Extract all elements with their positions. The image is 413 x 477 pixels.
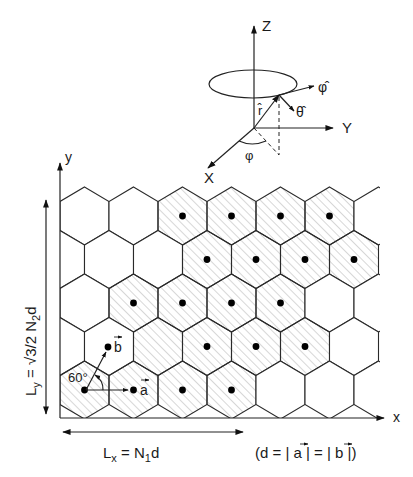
lattice-y-axis-label: y [65,149,72,165]
angle-label: 60° [68,370,88,385]
ly-label: Ly = √3/2 N2d [22,307,42,397]
lattice-site-dot [228,387,235,394]
spherical-coordinate-diagram: Z Y X r̂ θ̂ φ̂ φ [204,17,352,186]
lattice-site-dot [204,343,211,350]
lattice-site-dot [204,256,211,263]
projection-radial [254,128,279,155]
lattice-site-dot [228,213,235,220]
phi-angle-label: φ [245,148,253,163]
phi-angle-arc [239,141,266,144]
lattice-site-dot [302,343,309,350]
lattice-site-dot [253,256,260,263]
lattice-site-dot [179,300,186,307]
d-definition: (d = | a | = | b |) [255,444,356,461]
lattice-site-dot [277,213,284,220]
hexagonal-lattice-diagram: Z Y X r̂ θ̂ φ̂ φ y x a b 60° Ly = √3/2 N… [0,0,413,477]
hexagonal-grid [36,187,404,419]
y-axis-3d-label: Y [342,119,352,136]
lattice-site-dot [179,213,186,220]
vector-a-label: a [140,382,148,398]
lattice-site-dot [179,387,186,394]
lattice-site-dot [302,256,309,263]
theta-hat-vector [279,95,294,111]
lattice-x-axis-label: x [393,409,400,425]
phi-hat-label: φ̂ [318,79,330,95]
lattice-site-dot [130,387,137,394]
lattice-site-dot [351,256,358,263]
vector-b-tip-dot [105,344,112,351]
lx-label: Lx = N1d [103,444,159,464]
lattice-site-dot [130,300,137,307]
r-hat-label: r̂ [257,103,263,118]
lattice-site-dot [326,213,333,220]
z-axis-label: Z [262,17,271,34]
lattice-site-dot [253,343,260,350]
x-axis-3d-label: X [204,169,214,186]
theta-hat-label: θ̂ [296,104,307,120]
vector-b-label: b [114,339,122,355]
lattice-site-dot [277,300,284,307]
lattice-site-dot [228,300,235,307]
